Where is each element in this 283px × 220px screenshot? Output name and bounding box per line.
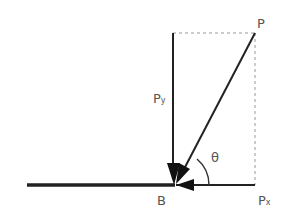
label-py: Py — [153, 92, 166, 105]
label-py-main: P — [153, 91, 161, 106]
label-theta: θ — [211, 151, 219, 164]
label-px-main: P — [258, 193, 266, 208]
vector-diagram — [0, 0, 283, 220]
label-py-sub: y — [161, 96, 166, 105]
angle-arc — [197, 159, 209, 185]
label-b: B — [157, 194, 166, 207]
label-px-sub: x — [266, 198, 271, 207]
label-p: P — [257, 17, 265, 30]
p-vector — [183, 33, 255, 171]
label-px: Px — [258, 194, 271, 207]
